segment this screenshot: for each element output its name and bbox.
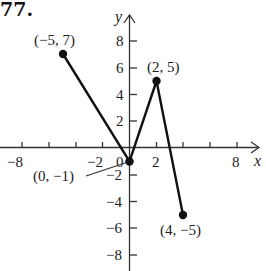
point-label-2-5: (2, 5) [147, 59, 180, 76]
x-tick-label-neg8: −8 [7, 154, 23, 170]
y-tick-label-6: 6 [116, 60, 124, 76]
point-2-5 [152, 77, 160, 85]
y-tick-label-neg8: −8 [106, 247, 122, 263]
y-tick-label-4: 4 [116, 87, 124, 103]
y-tick-label-neg4: −4 [106, 194, 122, 210]
point-neg5-7 [59, 50, 67, 58]
x-axis-label: x [253, 152, 261, 169]
point-4-neg5 [179, 211, 187, 219]
y-tick-label-neg2: −2 [106, 167, 122, 183]
graph-line [63, 54, 183, 215]
x-tick-label-2: 2 [152, 154, 160, 170]
y-tick-label-2: 2 [116, 113, 124, 129]
x-tick-label-8: 8 [232, 154, 240, 170]
coordinate-plane: y x −8 −2 0 2 8 8 6 4 2 −2 −4 −6 −8 (−5,… [0, 0, 266, 271]
point-label-neg5-7: (−5, 7) [34, 32, 75, 49]
point-label-4-neg5: (4, −5) [160, 222, 201, 239]
point-0-neg1 [125, 157, 133, 165]
y-tick-label-neg6: −6 [106, 220, 122, 236]
y-axis-label: y [113, 8, 123, 26]
point-label-0-neg1: (0, −1) [33, 168, 74, 185]
x-tick-label-neg2: −2 [87, 154, 103, 170]
y-tick-label-8: 8 [116, 33, 124, 49]
